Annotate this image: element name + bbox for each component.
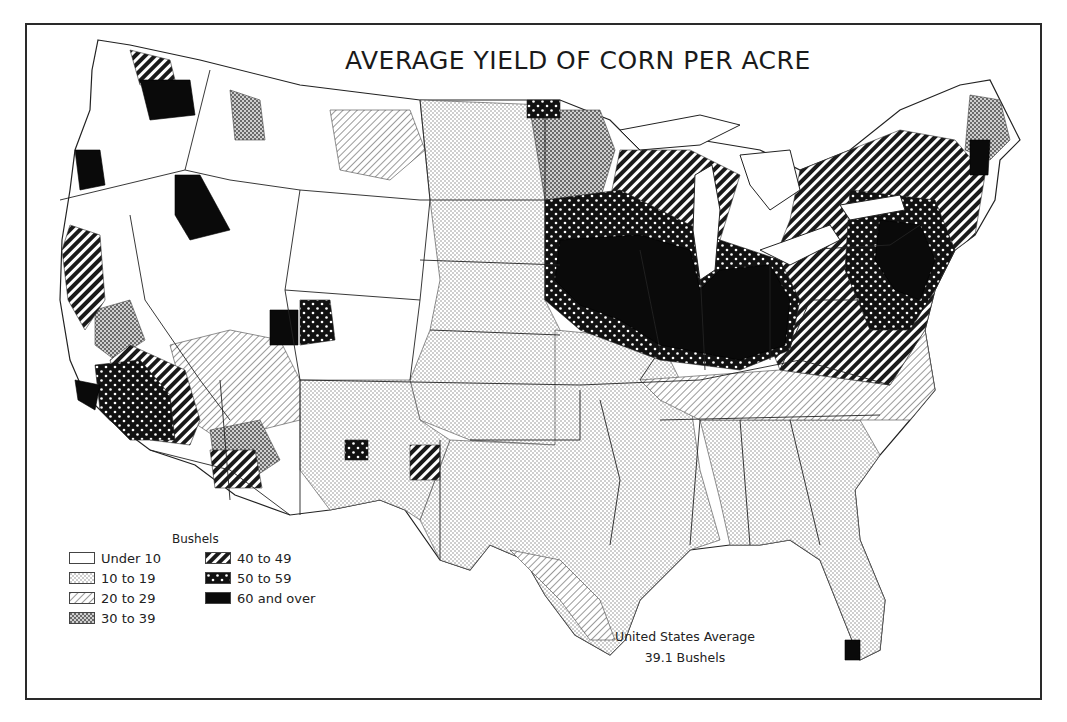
legend-label: 10 to 19 (101, 571, 155, 586)
legend-label: 20 to 29 (101, 591, 155, 606)
legend-title: Bushels (172, 532, 219, 546)
legend-label: 40 to 49 (237, 551, 291, 566)
swatch-50-59 (205, 572, 231, 584)
legend-item-under-10: Under 10 (69, 550, 161, 566)
swatch-30-39 (69, 612, 95, 624)
swatch-40-49 (205, 552, 231, 564)
legend-item-40-49: 40 to 49 (205, 550, 291, 566)
legend-item-10-19: 10 to 19 (69, 570, 155, 586)
map-title: AVERAGE YIELD OF CORN PER ACRE (345, 46, 805, 75)
legend-item-60-plus: 60 and over (205, 590, 315, 606)
us-average-label: United States Average (600, 626, 770, 647)
swatch-10-19 (69, 572, 95, 584)
legend-item-30-39: 30 to 39 (69, 610, 155, 626)
legend: Bushels Under 10 10 to 19 20 to 29 30 to… (60, 530, 340, 630)
legend-item-50-59: 50 to 59 (205, 570, 291, 586)
legend-item-20-29: 20 to 29 (69, 590, 155, 606)
legend-label: 50 to 59 (237, 571, 291, 586)
us-average-value: 39.1 Bushels (600, 647, 770, 668)
us-average-annotation: United States Average 39.1 Bushels (600, 626, 770, 668)
legend-label: Under 10 (101, 551, 161, 566)
swatch-20-29 (69, 592, 95, 604)
legend-label: 30 to 39 (101, 611, 155, 626)
legend-label: 60 and over (237, 591, 315, 606)
swatch-60-plus (205, 592, 231, 604)
swatch-under-10 (69, 552, 95, 564)
